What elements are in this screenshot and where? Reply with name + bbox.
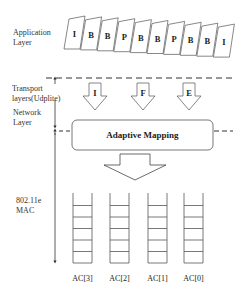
- frame-label: B: [188, 35, 194, 45]
- frame-label: P: [122, 32, 127, 42]
- transport-arrow-f: F: [131, 83, 155, 110]
- transport-arrow-e: E: [177, 83, 201, 110]
- adaptive-mapping-label: Adaptive Mapping: [106, 130, 179, 140]
- mapping-down-arrow-icon: [104, 154, 166, 180]
- queue-label: AC[2]: [109, 274, 130, 283]
- transport-arrows: IFE: [83, 83, 201, 110]
- queue-ac3: AC[3]: [72, 193, 93, 283]
- queue-label: AC[1]: [147, 274, 168, 283]
- transport-arrow-label: E: [186, 88, 192, 98]
- queue-label: AC[0]: [183, 274, 204, 283]
- queue-ac0: AC[0]: [183, 193, 204, 283]
- queue-ac2: AC[2]: [109, 193, 130, 283]
- frame-label: B: [88, 30, 94, 40]
- frame-label: B: [138, 33, 144, 43]
- ac-queues: AC[3]AC[2]AC[1]AC[0]: [72, 193, 204, 283]
- frame-label: P: [171, 34, 176, 44]
- queue-label: AC[3]: [72, 274, 93, 283]
- architecture-diagram: IBBPBBPBBI IFE Adaptive Mapping AC[3]AC[…: [0, 0, 248, 299]
- transport-arrow-i: I: [83, 83, 107, 110]
- frame-label: B: [105, 31, 111, 41]
- video-frames: IBBPBBPBBI: [64, 16, 234, 57]
- frame-label: B: [155, 34, 161, 44]
- queue-ac1: AC[1]: [147, 193, 168, 283]
- transport-arrow-label: F: [140, 88, 145, 98]
- frame-label: B: [204, 36, 210, 46]
